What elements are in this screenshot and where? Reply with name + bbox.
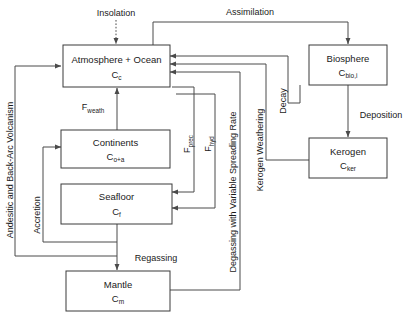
- flow-label-volcanism: Andesitic and Back-Arc Volcanism: [5, 102, 15, 239]
- box-seafloor-label: Seafloor: [99, 191, 134, 202]
- flow-label-assimilation: Assimilation: [226, 7, 274, 17]
- flow-label-f-hyd: Fhyd: [203, 136, 215, 152]
- flow-label-regassing: Regassing: [135, 253, 178, 263]
- flow-label-f-prec: Fprec: [182, 135, 194, 153]
- carbon-cycle-diagram: Atmosphere + Ocean Cc Continents Co+a Se…: [0, 0, 410, 325]
- box-mantle-rect: [66, 271, 170, 311]
- box-mantle-label: Mantle: [104, 279, 133, 290]
- flow-label-degassing: Degassing with Variable Spreading Rate: [228, 112, 238, 273]
- flow-label-kerogen-weathering: Kerogen Weathering: [255, 109, 265, 191]
- box-atmosphere-ocean[interactable]: Atmosphere + Ocean Cc: [63, 45, 170, 87]
- box-kerogen[interactable]: Kerogen Cker: [309, 138, 387, 178]
- flow-label-insolation: Insolation: [97, 8, 136, 18]
- diagram-canvas: Atmosphere + Ocean Cc Continents Co+a Se…: [0, 0, 410, 325]
- box-kerogen-rect: [309, 138, 387, 178]
- box-mantle[interactable]: Mantle Cm: [66, 271, 170, 311]
- flow-label-accretion: Accretion: [32, 196, 42, 234]
- box-biosphere[interactable]: Biosphere Cbio,i: [309, 45, 387, 85]
- box-atmosphere-ocean-rect: [63, 45, 170, 87]
- box-continents[interactable]: Continents Co+a: [61, 130, 170, 168]
- box-kerogen-label: Kerogen: [330, 146, 366, 157]
- box-biosphere-label: Biosphere: [327, 53, 370, 64]
- flow-label-decay: Decay: [278, 88, 288, 114]
- flow-label-deposition: Deposition: [360, 110, 403, 120]
- box-atmosphere-ocean-label: Atmosphere + Ocean: [71, 54, 161, 65]
- flow-label-f-weath: Fweath: [82, 102, 105, 113]
- flow-assimilation-path: [153, 22, 348, 45]
- box-seafloor[interactable]: Seafloor Cf: [61, 184, 172, 224]
- box-continents-label: Continents: [93, 137, 139, 148]
- box-biosphere-rect: [309, 45, 387, 85]
